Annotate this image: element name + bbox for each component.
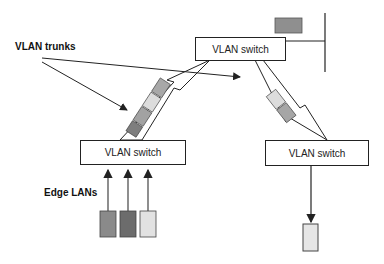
right-downlink bbox=[303, 166, 318, 251]
edge-lan-links bbox=[100, 170, 156, 237]
vlan-switch-top: VLAN switch bbox=[195, 37, 286, 61]
vlan-trunks-label: VLAN trunks bbox=[15, 41, 76, 52]
trunk-left bbox=[120, 60, 210, 140]
pointer-arrow-left bbox=[42, 62, 127, 110]
edge-lan-2 bbox=[120, 211, 136, 237]
edge-lan-3 bbox=[140, 211, 156, 237]
vlan-switch-right: VLAN switch bbox=[265, 140, 369, 166]
trunk-right bbox=[255, 60, 327, 140]
switch-label: VLAN switch bbox=[289, 148, 346, 159]
switch-label: VLAN switch bbox=[105, 147, 162, 158]
diagram-canvas bbox=[0, 0, 384, 264]
edge-lans-label: Edge LANs bbox=[44, 187, 97, 198]
switch-label: VLAN switch bbox=[212, 44, 269, 55]
vlan-switch-left: VLAN switch bbox=[80, 140, 186, 165]
edge-lan-1 bbox=[100, 211, 116, 237]
